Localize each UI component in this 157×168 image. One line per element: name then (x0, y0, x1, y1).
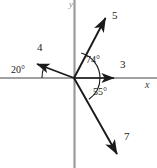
angle-20-label: 20° (11, 65, 25, 75)
ray-5-line (74, 18, 106, 78)
angle-diagram: 3 5 4 7 74° 55° 20° x y (0, 0, 157, 168)
ray-7-label: 7 (124, 131, 130, 142)
x-axis-label: x (145, 80, 149, 90)
ray-5-label: 5 (112, 10, 118, 21)
diagram-canvas (0, 0, 157, 168)
y-axis-label: y (69, 0, 73, 9)
angle-55-label: 55° (93, 87, 107, 97)
angle-74-label: 74° (86, 55, 100, 65)
ray-3-label: 3 (120, 59, 126, 70)
angle-20-arc (42, 67, 44, 78)
ray-4-label: 4 (37, 42, 43, 53)
